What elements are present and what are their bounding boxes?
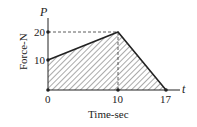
impulse-area [48,32,166,90]
point-10-0 [116,88,120,92]
x-tick-17: 17 [160,93,172,105]
y-tick-20: 20 [34,26,46,38]
y-axis-symbol: P [39,5,48,19]
y-axis-title: Force-N [17,33,29,70]
x-tick-10: 10 [112,93,124,105]
force-time-chart: P t 20 10 0 10 17 Time-sec Force-N [0,0,197,127]
x-axis-title: Time-sec [88,108,129,120]
x-axis-symbol: t [182,82,186,96]
point-origin [46,88,50,92]
point-17-0 [164,88,168,92]
point-0-10 [46,58,50,62]
y-tick-10: 10 [34,54,46,66]
x-tick-0: 0 [45,93,51,105]
point-0-20 [46,30,50,34]
